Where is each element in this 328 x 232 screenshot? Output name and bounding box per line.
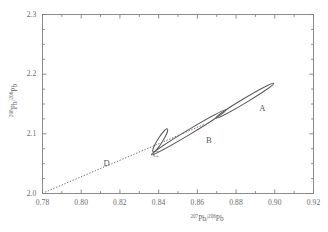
x-tick-label: 0.88 <box>220 198 252 207</box>
reference-line-d <box>45 124 205 192</box>
x-tick-label: 0.86 <box>181 198 213 207</box>
pb-isotope-scatter-plot: 2.02.12.22.3 0.780.800.820.840.860.880.9… <box>0 0 328 232</box>
y-axis-slash: / <box>10 99 19 101</box>
y-axis-isotope-1: Pb <box>10 102 19 110</box>
series-label-a: A <box>259 103 265 113</box>
x-axis-title: 207Pb/206Pb <box>0 214 328 223</box>
y-tick-label: 2.0 <box>7 189 37 198</box>
series-label-d: D <box>103 158 109 168</box>
x-axis-isotope-2: Pb <box>216 214 224 223</box>
x-tick-label: 0.82 <box>104 198 136 207</box>
x-tick-label: 0.90 <box>259 198 291 207</box>
error-ellipse-b <box>150 108 227 157</box>
series-label-b: B <box>206 135 212 145</box>
y-axis-title: 208Pb/206Pb <box>10 51 19 151</box>
x-tick-label: 0.84 <box>143 198 175 207</box>
x-tick-label: 0.78 <box>27 198 59 207</box>
plot-border <box>43 15 314 194</box>
data-markers <box>45 81 275 192</box>
series-label-c: C <box>153 149 159 159</box>
x-tick-label: 0.92 <box>298 198 328 207</box>
x-axis-superscript-1: 207 <box>190 213 198 219</box>
y-axis-superscript-2: 206 <box>8 92 14 100</box>
x-axis-superscript-2: 206 <box>208 213 216 219</box>
y-tick-label: 2.3 <box>7 10 37 19</box>
plot-frame <box>43 15 314 194</box>
axis-ticks <box>43 15 314 194</box>
x-tick-label: 0.80 <box>65 198 97 207</box>
y-axis-superscript-1: 208 <box>8 109 14 117</box>
x-axis-isotope-1: Pb <box>198 214 206 223</box>
y-axis-isotope-2: Pb <box>10 84 19 92</box>
error-ellipse-a <box>215 81 275 120</box>
